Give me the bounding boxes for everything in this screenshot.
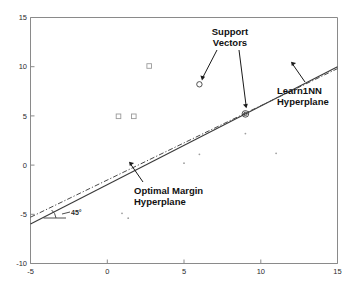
plot-frame bbox=[31, 18, 338, 264]
data-point-square bbox=[116, 114, 121, 119]
annotation-angle-45: 45° bbox=[44, 209, 82, 218]
learn1nn-arrow bbox=[291, 62, 305, 82]
annotation-optimal-margin-hyperplane: Optimal Margin Hyperplane bbox=[129, 162, 203, 207]
data-point-dot bbox=[245, 133, 247, 135]
x-tick-label-5: 5 bbox=[182, 267, 186, 276]
series-class-a-squares bbox=[116, 64, 151, 119]
series-class-b-circles bbox=[197, 82, 249, 118]
x-tick-label-15: 15 bbox=[333, 267, 341, 276]
angle-leader-line bbox=[62, 212, 70, 214]
arrow-head-icon bbox=[200, 76, 205, 81]
chart-figure: 15 10 5 0 -5 -10 -5 0 5 10 15 bbox=[0, 0, 360, 298]
optimal-margin-arrow bbox=[129, 162, 143, 182]
optimal-margin-label-line2: Hyperplane bbox=[134, 196, 186, 207]
y-tick-label-5: 5 bbox=[23, 112, 27, 121]
x-axis-ticks: -5 0 5 10 15 bbox=[27, 260, 342, 277]
data-point-dot bbox=[183, 162, 185, 164]
data-point-circle bbox=[197, 82, 202, 87]
data-point-dot bbox=[275, 152, 277, 154]
y-tick-label-0: 0 bbox=[23, 161, 27, 170]
support-vector-arrow-left bbox=[200, 50, 217, 81]
annotation-support-vectors: Support Vectors bbox=[200, 26, 249, 108]
learn1nn-label-line1: Learn1NN bbox=[277, 85, 322, 96]
y-tick-label-10: 10 bbox=[19, 62, 27, 71]
scatter-plot-svg: 15 10 5 0 -5 -10 -5 0 5 10 15 bbox=[0, 0, 360, 298]
x-tick-label-10: 10 bbox=[257, 267, 265, 276]
support-vector-arrow-right bbox=[239, 50, 248, 108]
annotation-learn1nn-hyperplane: Learn1NN Hyperplane bbox=[277, 62, 329, 107]
x-tick-label-0: 0 bbox=[105, 267, 109, 276]
y-tick-label-neg5: -5 bbox=[20, 210, 27, 219]
support-vectors-label-line2: Vectors bbox=[213, 37, 247, 48]
data-point-dot bbox=[199, 153, 201, 155]
y-axis-ticks: 15 10 5 0 -5 -10 bbox=[16, 13, 34, 268]
learn1nn-label-line2: Hyperplane bbox=[277, 96, 329, 107]
x-tick-label-neg5: -5 bbox=[27, 267, 34, 276]
optimal-margin-label-line1: Optimal Margin bbox=[134, 185, 203, 196]
arrow-head-icon bbox=[243, 104, 248, 108]
data-point-dot bbox=[127, 217, 129, 219]
support-vectors-label-line1: Support bbox=[212, 26, 249, 37]
y-tick-label-15: 15 bbox=[19, 13, 27, 22]
data-point-dot bbox=[121, 212, 123, 214]
data-point-square bbox=[147, 64, 152, 69]
data-point-square bbox=[132, 114, 137, 119]
angle-label: 45° bbox=[71, 209, 82, 216]
y-tick-label-neg10: -10 bbox=[16, 259, 27, 268]
